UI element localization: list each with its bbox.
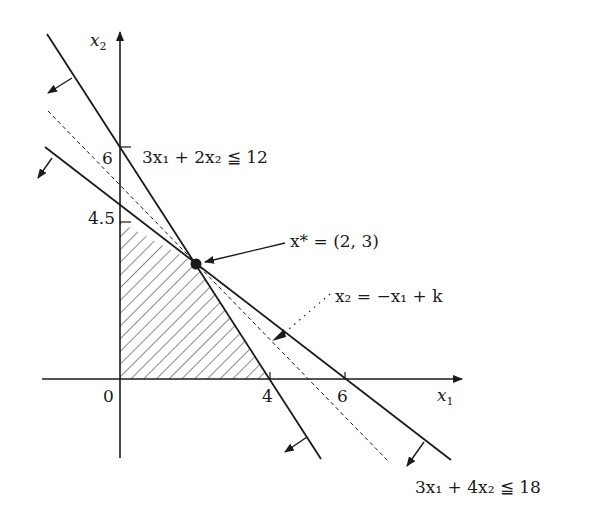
y-tick-label-4.5: 4.5 xyxy=(88,208,115,228)
optimum-point xyxy=(191,259,202,270)
x-tick-label-6: 6 xyxy=(337,386,348,406)
y-tick-label-6: 6 xyxy=(102,148,113,168)
constraint-2-label: 3x₁ + 4x₂ ≦ 18 xyxy=(415,477,541,497)
lp-diagram xyxy=(0,0,590,529)
objective-leader-arrowhead xyxy=(272,329,286,341)
constraint-2-arrow-bottom xyxy=(407,442,424,466)
objective-leader xyxy=(282,294,330,335)
optimum-arrow xyxy=(205,243,285,262)
constraint-1-arrow-top xyxy=(48,78,72,93)
constraint-2-arrow-top xyxy=(38,158,52,178)
y-axis-label: x2 xyxy=(90,30,107,53)
x-tick-label-4: 4 xyxy=(262,386,273,406)
constraint-1-arrow-bottom xyxy=(285,437,307,452)
origin-label: 0 xyxy=(103,386,114,406)
objective-label: x₂ = −x₁ + k xyxy=(335,286,442,306)
x-axis-label: x1 xyxy=(437,385,454,408)
optimum-label: x* = (2, 3) xyxy=(290,231,379,251)
constraint-line-1 xyxy=(47,34,321,459)
constraint-1-label: 3x₁ + 2x₂ ≦ 12 xyxy=(142,147,268,167)
feasible-region xyxy=(120,222,270,379)
